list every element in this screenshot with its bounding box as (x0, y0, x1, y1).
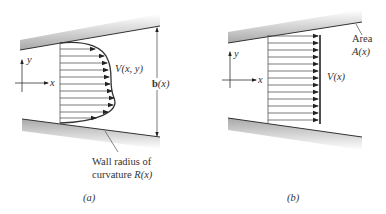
top-wall-b (228, 10, 362, 43)
wall-label-symbol: R(x) (134, 169, 152, 180)
axis-y-label-b: y (234, 48, 239, 60)
velocity-label-a: V(x, y) (115, 63, 143, 75)
bottom-wall-a (22, 119, 160, 149)
caption-b: (b) (287, 192, 299, 204)
axis-y-label-a: y (27, 54, 32, 66)
bottom-wall-b (228, 118, 362, 150)
area-label-line1: Area (352, 33, 372, 45)
wall-label-prefix: curvature (92, 169, 134, 180)
caption-a: (a) (83, 192, 95, 204)
axis-x-label-b: x (258, 74, 263, 86)
height-label-rest: (x) (158, 78, 170, 89)
panel-a (15, 14, 160, 152)
axis-x-label-a: x (50, 77, 55, 89)
velocity-profile-b (268, 35, 320, 124)
velocity-label-b: V(x) (327, 71, 345, 83)
diagram-canvas (0, 0, 386, 214)
velocity-profile-a (60, 42, 115, 123)
area-label-line2: A(x) (352, 46, 370, 58)
wall-label-line2: curvature R(x) (92, 169, 152, 181)
axes-b (222, 52, 256, 88)
height-label-b-x: b(x) (151, 78, 171, 90)
wall-label-line1: Wall radius of (92, 156, 151, 168)
